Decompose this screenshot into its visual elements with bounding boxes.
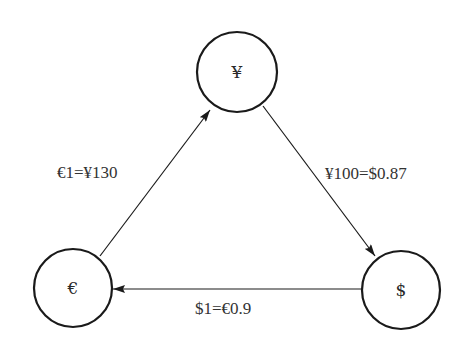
edge-yen-to-dollar: ¥100=$0.87 (263, 106, 407, 256)
edge-euro-to-yen: €1=¥130 (57, 110, 210, 256)
dollar-symbol-icon: $ (396, 280, 407, 300)
node-dollar: $ (362, 251, 440, 329)
node-euro: € (34, 249, 112, 327)
edge-dollar-to-euro: $1=€0.9 (113, 289, 361, 318)
edge-label-euro-to-yen: €1=¥130 (57, 163, 118, 182)
node-yen: ¥ (197, 32, 277, 112)
yen-symbol-icon: ¥ (231, 62, 243, 82)
currency-exchange-diagram: €1=¥130 ¥100=$0.87 $1=€0.9 ¥ € $ (0, 0, 470, 355)
arrow-euro-to-yen (100, 110, 210, 256)
euro-symbol-icon: € (67, 278, 79, 298)
edge-label-dollar-to-euro: $1=€0.9 (195, 299, 251, 318)
edge-label-yen-to-dollar: ¥100=$0.87 (325, 164, 407, 183)
